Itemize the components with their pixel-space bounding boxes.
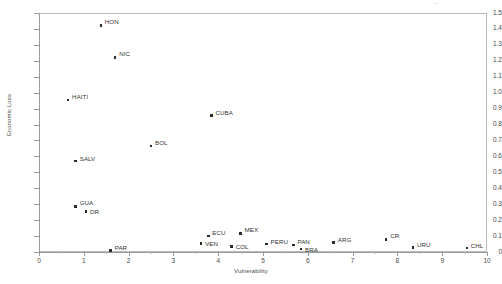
y-tick: [34, 77, 39, 78]
y-tick: [34, 172, 39, 173]
data-point: [265, 243, 268, 246]
y-tick: [34, 93, 39, 94]
y-axis-title: Economic Loss: [6, 80, 12, 150]
data-point-label: CHL: [471, 243, 484, 249]
data-point-label: BOL: [155, 140, 168, 146]
x-tick-minor: [375, 252, 376, 254]
y-tick-label: 0: [474, 249, 502, 256]
x-tick-minor: [151, 252, 152, 254]
x-tick-label: 4: [208, 258, 228, 265]
data-point-label: NIC: [119, 51, 130, 57]
plot-area: [39, 13, 487, 252]
data-point: [74, 205, 77, 208]
y-tick: [34, 61, 39, 62]
x-tick: [397, 252, 398, 256]
data-point-label: GUA: [80, 200, 94, 206]
y-tick-label: 0.8: [474, 121, 502, 128]
data-point: [85, 210, 88, 213]
x-tick-label: 0: [29, 258, 49, 265]
x-tick-minor: [465, 252, 466, 254]
y-tick: [34, 45, 39, 46]
data-point: [200, 242, 203, 245]
data-point-label: BRA: [305, 247, 318, 253]
x-tick: [442, 252, 443, 256]
data-point: [292, 244, 295, 247]
data-point: [412, 246, 415, 249]
y-tick-label: 1.4: [474, 25, 502, 32]
y-tick-label: 1.3: [474, 41, 502, 48]
data-point: [385, 238, 388, 241]
x-tick-minor: [285, 252, 286, 254]
x-tick: [129, 252, 130, 256]
data-point-label: DR: [90, 209, 99, 215]
y-tick-label: 0.2: [474, 217, 502, 224]
y-tick-label: 0.1: [474, 233, 502, 240]
x-tick-label: 7: [343, 258, 363, 265]
y-tick-label: 0.6: [474, 153, 502, 160]
y-tick-label: 0.3: [474, 201, 502, 208]
data-point: [230, 245, 233, 248]
data-point-label: URU: [417, 242, 431, 248]
x-tick-minor: [106, 252, 107, 254]
x-tick-minor: [196, 252, 197, 254]
x-tick: [353, 252, 354, 256]
x-tick-label: 8: [387, 258, 407, 265]
data-point: [239, 232, 242, 235]
y-tick-label: 0.4: [474, 185, 502, 192]
y-tick: [34, 125, 39, 126]
data-point: [207, 235, 210, 238]
data-point-label: CUBA: [215, 110, 232, 116]
data-point-label: ARG: [338, 237, 352, 243]
data-point-label: PAN: [297, 239, 309, 245]
y-tick-label: 0.7: [474, 137, 502, 144]
y-tick: [34, 140, 39, 141]
data-point: [100, 24, 103, 27]
y-tick-label: 0.9: [474, 105, 502, 112]
y-tick-label: 0.5: [474, 169, 502, 176]
data-point-label: CR: [390, 233, 399, 239]
data-point: [109, 249, 112, 252]
y-tick: [34, 29, 39, 30]
data-point: [74, 160, 77, 163]
y-tick-label: 1.0: [474, 89, 502, 96]
y-tick: [34, 236, 39, 237]
top-artifact-mark: ~: [434, 1, 437, 6]
y-tick: [34, 156, 39, 157]
data-point-label: ECU: [212, 230, 225, 236]
x-tick: [487, 252, 488, 256]
x-tick: [218, 252, 219, 256]
y-tick: [34, 13, 39, 14]
x-tick: [84, 252, 85, 256]
x-tick-minor: [61, 252, 62, 254]
x-axis-title: Vulnerability: [0, 268, 502, 274]
data-point-label: SALV: [80, 156, 96, 162]
data-point: [150, 145, 153, 148]
data-point-label: COL: [236, 244, 249, 250]
y-axis-line: [39, 13, 40, 253]
data-point: [114, 56, 117, 59]
x-tick-minor: [420, 252, 421, 254]
x-tick-label: 6: [298, 258, 318, 265]
x-tick-label: 10: [477, 258, 497, 265]
x-tick-label: 2: [119, 258, 139, 265]
x-tick-label: 9: [432, 258, 452, 265]
x-tick-label: 3: [163, 258, 183, 265]
x-tick-label: 5: [253, 258, 273, 265]
y-tick: [34, 204, 39, 205]
data-point: [210, 114, 213, 117]
data-point: [466, 247, 469, 250]
data-point: [332, 241, 335, 244]
y-tick: [34, 109, 39, 110]
x-tick: [263, 252, 264, 256]
data-point-label: VEN: [205, 241, 218, 247]
y-tick-label: 1.5: [474, 10, 502, 17]
data-point-label: HAITI: [72, 94, 88, 100]
data-point-label: PAR: [115, 245, 127, 251]
scatter-chart: 00.10.20.30.40.50.60.70.80.91.01.11.21.3…: [0, 0, 502, 284]
x-tick: [173, 252, 174, 256]
x-tick: [39, 252, 40, 256]
y-tick: [34, 220, 39, 221]
data-point: [300, 248, 303, 251]
y-tick-label: 1.2: [474, 57, 502, 64]
y-tick: [34, 188, 39, 189]
